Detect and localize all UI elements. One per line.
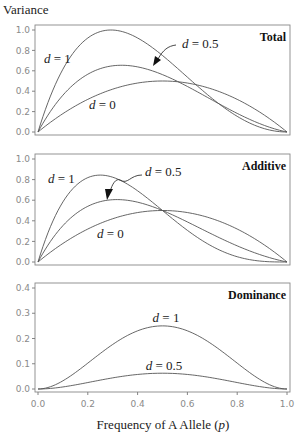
x-tick-label: 0.8: [230, 399, 245, 409]
curve-label: d = 0.5: [182, 36, 219, 51]
curve-label: d = 1: [153, 310, 180, 325]
panel-total: 0.00.20.40.60.81.0Totald = 1d = 0.5d = 0: [16, 25, 290, 137]
curve-d0-5: [38, 200, 287, 262]
panel-title: Additive: [242, 159, 287, 173]
variance-chart: Variance 0.00.20.40.60.81.0Totald = 1d =…: [0, 0, 304, 437]
x-tick-label: 1.0: [280, 399, 295, 409]
y-tick-label: 0.4: [16, 86, 31, 96]
y-tick-label: 0.6: [16, 195, 31, 205]
plot-frame: [35, 25, 290, 135]
y-tick-label: 0.2: [16, 334, 30, 344]
curve-d0-5: [38, 65, 287, 132]
x-tick-label: 0.0: [31, 399, 46, 409]
y-tick-label: 0.8: [16, 175, 31, 185]
y-tick-label: 0.0: [16, 257, 31, 267]
curve-label: d = 0.5: [146, 358, 183, 373]
y-tick-label: 0.2: [16, 107, 30, 117]
x-tick-label: 0.4: [130, 399, 145, 409]
curve-d0: [38, 211, 287, 263]
curve-d0: [38, 81, 287, 132]
arrowhead-icon: [153, 56, 161, 66]
y-tick-label: 0.0: [16, 384, 31, 394]
curve-label: d = 0: [97, 226, 124, 241]
panel-title: Total: [260, 30, 287, 44]
curve-d0-5: [38, 373, 287, 389]
panel-additive: 0.00.20.40.60.81.0Additived = 1d = 0.5d …: [16, 154, 290, 267]
curve-label: d = 1: [48, 171, 75, 186]
y-tick-label: 0.8: [16, 46, 31, 56]
y-axis-title: Variance: [3, 2, 49, 17]
panel-title: Dominance: [228, 288, 287, 302]
y-tick-label: 0.6: [16, 66, 31, 76]
curve-label: d = 0.5: [145, 164, 182, 179]
y-tick-label: 0.1: [16, 359, 30, 369]
y-tick-label: 0.0: [16, 127, 31, 137]
curve-label: d = 0: [89, 97, 116, 112]
curve-label: d = 1: [44, 51, 71, 66]
y-tick-label: 1.0: [16, 154, 31, 164]
y-tick-label: 0.3: [16, 308, 30, 318]
y-tick-label: 0.4: [16, 216, 31, 226]
x-axis-title: Frequency of A Allele (p): [97, 417, 230, 432]
x-tick-label: 0.2: [81, 399, 95, 409]
y-tick-label: 0.2: [16, 237, 30, 247]
panel-dominance: 0.00.10.20.30.4Dominanced = 1d = 0.5: [16, 283, 290, 394]
x-axis: 0.00.20.40.60.81.0: [31, 392, 295, 409]
y-tick-label: 1.0: [16, 25, 31, 35]
x-tick-label: 0.6: [180, 399, 195, 409]
arrowhead-icon: [105, 189, 113, 200]
y-tick-label: 0.4: [16, 283, 31, 293]
arrow-d05-total: [158, 45, 176, 59]
curve-d1: [38, 175, 287, 262]
